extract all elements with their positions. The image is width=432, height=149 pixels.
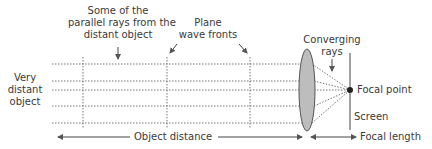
- focal-point-dot: [347, 87, 353, 93]
- parallel-rays: [52, 64, 302, 123]
- object-distance-label: Object distance: [134, 131, 212, 143]
- focal-length-label: Focal length: [360, 131, 421, 143]
- wavefront-pointer-left: [170, 44, 177, 53]
- wave-fronts-label: Plane wave fronts: [178, 17, 238, 41]
- plane-wave-fronts: [83, 57, 250, 128]
- object-label: Very distant object: [2, 72, 48, 108]
- parallel-rays-label: Some of the parallel rays from the dista…: [68, 5, 168, 41]
- converging-rays: [312, 64, 350, 123]
- converging-rays-label: Converging rays: [302, 34, 362, 58]
- focal-point-label: Focal point: [357, 84, 412, 96]
- convex-lens: [299, 49, 315, 131]
- screen-label: Screen: [354, 111, 388, 123]
- wavefront-pointer-right: [239, 44, 247, 53]
